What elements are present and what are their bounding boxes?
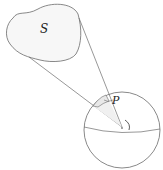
patch-label: P — [111, 94, 120, 107]
sphere-center — [121, 127, 123, 129]
surface-label: S — [40, 22, 48, 36]
solid-angle-diagram: S P — [0, 0, 163, 170]
solid-angle-arc — [125, 120, 130, 130]
